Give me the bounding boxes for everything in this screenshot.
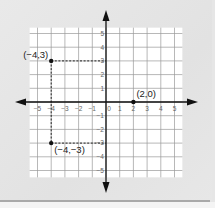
data-point xyxy=(49,59,53,63)
x-tick-label: −5 xyxy=(34,105,42,112)
arrow-right-icon xyxy=(187,99,198,106)
y-tick-label: −5 xyxy=(97,167,105,174)
x-tick-label: −1 xyxy=(89,105,97,112)
point-label: (−4,−3) xyxy=(54,144,85,155)
y-tick-label: −4 xyxy=(97,153,105,160)
y-tick-label: −1 xyxy=(97,112,105,119)
x-tick-label: 3 xyxy=(145,105,149,112)
x-tick-label: −3 xyxy=(61,105,69,112)
data-point xyxy=(49,141,53,145)
y-tick-label: 4 xyxy=(100,44,104,51)
x-tick-label: 0 xyxy=(107,105,111,112)
arrow-left-icon xyxy=(15,99,26,106)
data-point xyxy=(131,100,135,104)
y-tick-label: −3 xyxy=(97,139,105,146)
x-tick-label: 4 xyxy=(159,105,163,112)
y-tick-label: −2 xyxy=(97,126,105,133)
y-tick-label: 3 xyxy=(100,57,104,64)
point-label: (−4,3) xyxy=(23,49,48,60)
arrow-down-icon xyxy=(103,182,110,193)
x-tick-label: 5 xyxy=(173,105,177,112)
x-tick-label: −4 xyxy=(47,105,55,112)
x-tick-label: −2 xyxy=(75,105,83,112)
y-tick-label: 5 xyxy=(100,30,104,37)
y-tick-label: 1 xyxy=(100,85,104,92)
y-tick-label: 2 xyxy=(100,71,104,78)
x-tick-label: 1 xyxy=(118,105,122,112)
point-label: (2,0) xyxy=(136,88,156,99)
x-tick-label: 2 xyxy=(132,105,136,112)
arrow-up-icon xyxy=(103,10,110,21)
coordinate-plane: −5−4−3−2−101234554321−1−2−3−4−5 (−4,3)(2… xyxy=(0,0,215,208)
